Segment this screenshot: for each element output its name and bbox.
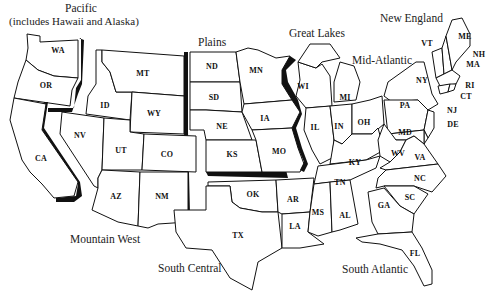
state-label-oh: OH	[358, 118, 371, 127]
state-label-md: MD	[398, 128, 412, 137]
state-il	[304, 106, 334, 164]
state-label-wi: WI	[297, 82, 309, 91]
region-label-new-england: New England	[380, 12, 443, 24]
state-oh	[352, 96, 384, 134]
state-label-sc: SC	[405, 193, 416, 202]
state-label-wy: WY	[147, 109, 161, 118]
region-label-mid-atlantic: Mid-Atlantic	[352, 54, 412, 66]
state-label-wa: WA	[51, 46, 64, 55]
state-label-fl: FL	[410, 249, 421, 258]
state-label-ok: OK	[247, 190, 260, 199]
state-label-nj: NJ	[447, 106, 457, 115]
state-label-il: IL	[311, 123, 320, 132]
state-ri	[448, 84, 456, 92]
state-label-az: AZ	[110, 192, 122, 201]
state-label-ma: MA	[466, 60, 480, 69]
region-new-england	[432, 18, 470, 94]
state-label-ca: CA	[35, 154, 47, 163]
state-fl	[356, 232, 432, 286]
state-label-ny: NY	[416, 76, 428, 85]
state-label-mi: MI	[339, 93, 350, 102]
state-label-ia: IA	[260, 114, 269, 123]
state-ia	[242, 100, 300, 130]
state-label-ky: KY	[349, 158, 361, 167]
state-label-tn: TN	[334, 178, 346, 187]
state-label-pa: PA	[400, 101, 410, 110]
state-label-nd: ND	[206, 62, 218, 71]
region-label-mountain-west: Mountain West	[70, 233, 140, 245]
state-label-co: CO	[161, 150, 173, 159]
state-label-ks: KS	[226, 150, 237, 159]
state-label-mo: MO	[272, 147, 286, 156]
region-label-great-lakes: Great Lakes	[289, 27, 345, 39]
region-sublabel-pacific: (includes Hawaii and Alaska)	[9, 15, 139, 27]
state-label-ri: RI	[465, 81, 474, 90]
state-label-ne: NE	[216, 122, 228, 131]
state-label-nv: NV	[74, 131, 86, 140]
region-label-south-atlantic: South Atlantic	[342, 263, 408, 275]
state-label-in: IN	[334, 122, 343, 131]
state-label-or: OR	[40, 81, 52, 90]
state-label-nc: NC	[414, 174, 426, 183]
state-label-ct: CT	[460, 92, 472, 101]
state-label-ut: UT	[115, 146, 127, 155]
state-label-nh: NH	[473, 50, 485, 59]
state-label-id: ID	[100, 101, 109, 110]
state-label-sd: SD	[209, 93, 220, 102]
state-ct	[438, 84, 450, 94]
region-label-plains: Plains	[198, 36, 226, 48]
region-label-south-central: South Central	[158, 262, 222, 274]
state-label-va: VA	[415, 153, 426, 162]
state-label-de: DE	[447, 120, 459, 129]
state-label-me: ME	[458, 32, 471, 41]
state-label-wv: WV	[391, 149, 405, 158]
region-label-pacific: Pacific	[65, 2, 97, 14]
state-label-tx: TX	[232, 231, 244, 240]
state-label-mt: MT	[136, 69, 149, 78]
state-label-mn: MN	[249, 66, 263, 75]
state-al	[330, 180, 358, 232]
state-label-ar: AR	[287, 195, 299, 204]
state-label-vt: VT	[421, 39, 433, 48]
state-label-al: AL	[339, 211, 351, 220]
state-label-nm: NM	[155, 192, 169, 201]
state-label-la: LA	[289, 222, 301, 231]
state-label-ms: MS	[312, 208, 324, 217]
state-label-ga: GA	[378, 201, 390, 210]
